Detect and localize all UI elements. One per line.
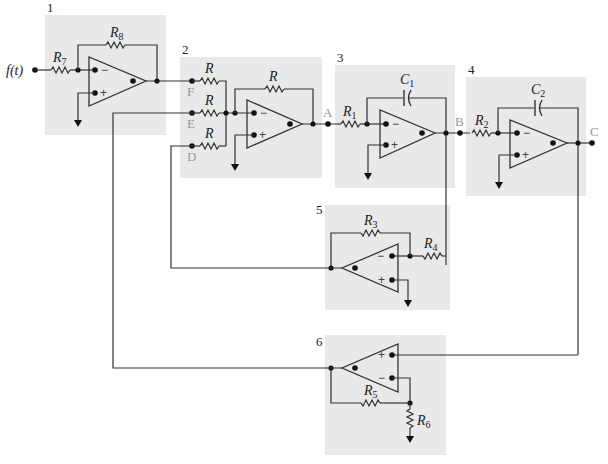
- opamp-2-minus: −: [260, 106, 267, 120]
- label-r-f: R: [204, 61, 214, 76]
- block-1-label: 1: [47, 0, 54, 15]
- opamp-5-plus: +: [378, 273, 385, 287]
- node-f-label: F: [187, 84, 194, 99]
- opamp-3-plus: +: [391, 138, 398, 152]
- block-3-label: 3: [337, 50, 344, 65]
- node-e-label: E: [187, 116, 195, 131]
- circuit-diagram: 1 2 3 4 5 6 f(t) R7 R8 − + F E D R R R R…: [0, 0, 608, 464]
- opamp-2-plus: +: [259, 128, 266, 142]
- block-5-label: 5: [316, 202, 323, 217]
- block-4-label: 4: [468, 62, 475, 77]
- block-2-background: [180, 57, 322, 178]
- block-6-background: [325, 335, 446, 455]
- label-r-e: R: [204, 93, 214, 108]
- opamp-3-minus: −: [392, 117, 399, 131]
- block-2-label: 2: [182, 42, 189, 57]
- opamp-6-minus: −: [378, 371, 385, 385]
- opamp-4-plus: +: [522, 148, 529, 162]
- node-a-label: A: [323, 105, 333, 120]
- block-6-label: 6: [316, 334, 323, 349]
- input-label-f-of-t: f(t): [6, 63, 23, 79]
- opamp-1-plus: +: [100, 86, 107, 100]
- node-a: [325, 121, 331, 127]
- opamp-4-minus: −: [523, 126, 530, 140]
- label-r-d: R: [204, 126, 214, 141]
- node-d-label: D: [187, 149, 196, 164]
- node-c: [589, 140, 595, 146]
- node-c-label: C: [590, 124, 599, 139]
- node-b-label: B: [455, 114, 464, 129]
- label-r-feedback-2: R: [268, 69, 278, 84]
- opamp-6-plus: +: [378, 348, 385, 362]
- opamp-5-minus: −: [377, 249, 384, 263]
- opamp-1-minus: −: [101, 63, 108, 77]
- node-b: [457, 130, 463, 136]
